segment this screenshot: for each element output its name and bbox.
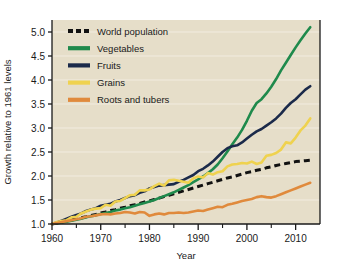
x-tick-label: 2000 [236, 233, 259, 244]
legend-label-vegetables: Vegetables [97, 43, 144, 54]
y-tick-label: 2.5 [31, 147, 45, 158]
y-tick-label: 1.0 [31, 219, 45, 230]
chart-canvas: 196019701980199020002010 1.01.52.02.53.0… [0, 0, 342, 264]
y-tick-label: 4.0 [31, 75, 45, 86]
x-tick-label: 1990 [187, 233, 210, 244]
x-tick-label: 1980 [138, 233, 161, 244]
x-tick-label: 1970 [90, 233, 113, 244]
growth-relative-to-1961-chart: 196019701980199020002010 1.01.52.02.53.0… [0, 0, 342, 264]
x-tick-label: 1960 [41, 233, 64, 244]
y-tick-label: 3.0 [31, 123, 45, 134]
legend-label-grains: Grains [97, 77, 125, 88]
y-tick-label: 1.5 [31, 195, 45, 206]
y-tick-label: 3.5 [31, 99, 45, 110]
y-tick-label: 5.0 [31, 27, 45, 38]
x-axis-label: Year [176, 250, 195, 261]
legend-label-roots-and-tubers: Roots and tubers [97, 94, 170, 105]
y-tick-label: 4.5 [31, 51, 45, 62]
x-tick-label: 2010 [285, 233, 308, 244]
y-tick-label: 2.0 [31, 171, 45, 182]
y-axis-label: Growth relative to 1961 levels [2, 59, 13, 184]
legend-label-fruits: Fruits [97, 60, 121, 71]
legend-label-world-population: World population [97, 26, 168, 37]
